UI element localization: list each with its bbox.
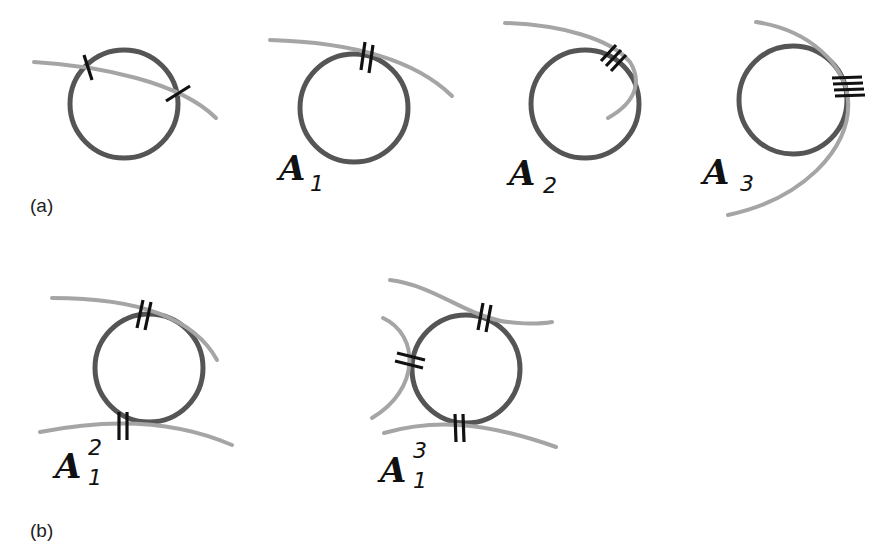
label-A2-subscript: 2	[543, 173, 557, 198]
diagram-transversal	[34, 50, 216, 158]
tick-mark	[463, 414, 464, 442]
label-A1-subscript: 1	[310, 171, 324, 196]
label-A1-3-subscript: 1	[413, 468, 427, 493]
label-A3-subscript: 3	[740, 171, 754, 196]
label-A1-3-superscript: 3	[413, 438, 427, 463]
panel-b-label: (b)	[30, 520, 53, 541]
tick-mark	[455, 414, 456, 442]
curve	[505, 23, 636, 118]
tick-mark	[361, 42, 365, 70]
circle	[412, 315, 520, 423]
circle	[300, 54, 408, 162]
curve-bottom	[384, 425, 556, 447]
circle	[95, 314, 203, 422]
diagram-A3: A 3	[700, 22, 865, 215]
circle	[531, 50, 639, 158]
label-A1: A	[276, 148, 305, 188]
tick-mark	[833, 83, 863, 84]
diagram-A1-cubed: A 3 1	[372, 280, 556, 493]
label-A1-3: A	[377, 450, 406, 490]
diagram-A2: A 2	[505, 23, 639, 198]
tick-mark	[832, 77, 862, 78]
tick-mark	[835, 95, 865, 96]
diagram-A1-squared: A 2 1	[40, 298, 232, 490]
panel-a: A 1 A 2 A 3 (a)	[30, 22, 865, 216]
label-A1-2: A	[52, 446, 81, 486]
panel-b: A 2 1 A 3 1 (b)	[30, 280, 556, 541]
label-A3: A	[700, 152, 729, 192]
label-A2: A	[506, 153, 535, 193]
diagram-A1: A 1	[270, 40, 452, 196]
label-A1-2-subscript: 1	[88, 465, 102, 490]
singularity-diagram: A 1 A 2 A 3 (a)	[0, 0, 895, 558]
tick-mark	[834, 89, 864, 90]
panel-a-label: (a)	[30, 195, 53, 216]
curve	[34, 62, 216, 118]
curve-left	[372, 318, 410, 418]
tick-mark	[369, 45, 373, 73]
curve-top	[52, 298, 217, 360]
curve-bottom	[40, 424, 232, 445]
label-A1-2-superscript: 2	[88, 435, 102, 460]
